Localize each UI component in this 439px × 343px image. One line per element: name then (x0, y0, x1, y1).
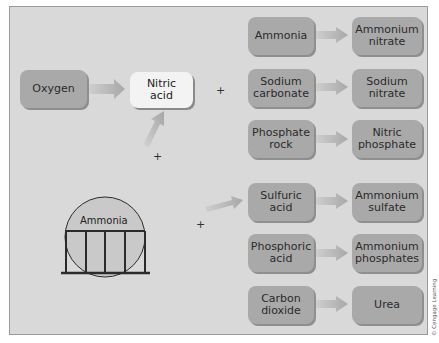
arrow-row-5 (315, 245, 348, 261)
product-label: Sodium nitrate (366, 76, 407, 100)
reactant-label: Sulfuric acid (248, 190, 314, 214)
oxygen-box: Oxygen (20, 70, 87, 108)
reactant-box-1: Ammonia (248, 17, 314, 55)
oxygen-label: Oxygen (32, 83, 74, 95)
plus-sign-ammonia-sulfuric: + (196, 219, 205, 230)
product-box-3: Nitric phosphate (352, 120, 422, 158)
reactant-label: Sodium carbonate (253, 76, 309, 100)
product-label: Urea (374, 299, 400, 311)
product-label: Ammonium nitrate (355, 24, 418, 48)
product-label: Nitric phosphate (358, 127, 416, 151)
reactant-box-3: Phosphate rock (248, 120, 314, 158)
ammonia-tank-label: Ammonia (80, 215, 128, 226)
nitric-acid-box: Nitric acid (130, 72, 193, 108)
product-label: Ammonium sulfate (355, 190, 418, 214)
nitric-acid-label: Nitric acid (147, 78, 176, 102)
reactant-label: Phosphate rock (252, 127, 310, 151)
copyright-credit: © Cengage Learning (431, 279, 437, 336)
arrow-ammonia-to-sulfuric-acid (205, 196, 243, 212)
reactant-label: Ammonia (255, 30, 307, 42)
reactant-box-2: Sodium carbonate (248, 69, 314, 107)
arrow-row-4 (315, 193, 348, 209)
arrow-row-6 (315, 296, 348, 312)
product-box-6: Urea (352, 286, 422, 324)
product-box-4: Ammonium sulfate (352, 183, 422, 221)
reactant-label: Carbon dioxide (261, 293, 301, 317)
reactant-box-6: Carbon dioxide (248, 286, 314, 324)
plus-sign-nitric: + (216, 85, 225, 96)
arrow-row-3 (315, 131, 348, 147)
product-label: Ammonium phosphates (355, 241, 419, 265)
ammonia-tank-icon (61, 197, 150, 277)
arrow-row-2 (315, 79, 348, 95)
arrow-oxygen-to-nitric-acid (88, 79, 125, 99)
reactant-box-4: Sulfuric acid (248, 183, 314, 221)
arrow-row-1 (315, 27, 348, 43)
product-box-2: Sodium nitrate (352, 69, 422, 107)
reactant-label: Phosphoric acid (251, 241, 311, 265)
arrow-ammonia-to-nitric-acid (143, 111, 164, 147)
plus-sign-ammonia-nitric: + (153, 151, 162, 162)
product-box-1: Ammonium nitrate (352, 17, 422, 55)
product-box-5: Ammonium phosphates (352, 234, 422, 272)
reactant-box-5: Phosphoric acid (248, 234, 314, 272)
